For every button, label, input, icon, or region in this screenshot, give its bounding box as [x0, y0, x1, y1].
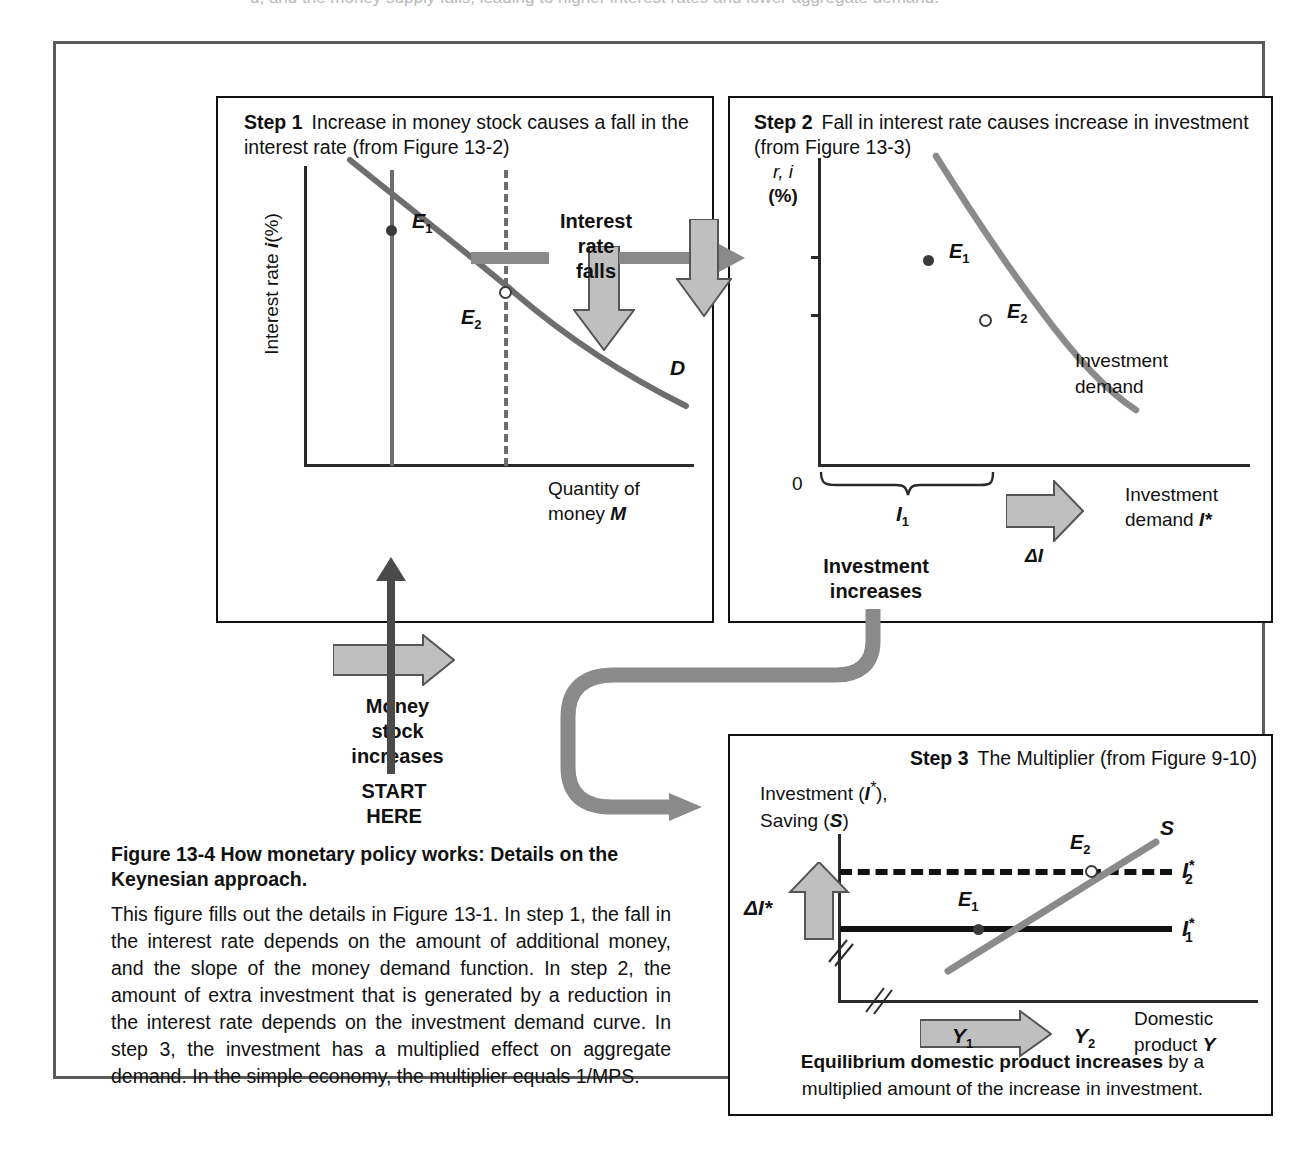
step-3-summary-line2: multiplied amount of the increase in inv… — [802, 1078, 1203, 1099]
figure-outer-frame: Step 1Increase in money stock causes a f… — [53, 41, 1265, 1079]
step-3-investment-line-1-label: I*1 — [1182, 914, 1193, 945]
step-2-point-e1-label: E1 — [949, 240, 970, 266]
step-1-point-e2-marker — [499, 286, 512, 299]
step-2-point-e2-label: E2 — [1007, 300, 1028, 326]
step-1-curve-label-d: D — [670, 356, 685, 380]
step-2-incoming-down-arrow — [676, 219, 732, 317]
panel-step-1: Step 1Increase in money stock causes a f… — [216, 96, 714, 623]
step-3-delta-i-label: ΔI* — [744, 896, 772, 920]
step-1-point-e1-label: E1 — [412, 210, 433, 236]
step-3-saving-curve — [838, 826, 1198, 1016]
step-3-curve-label-s: S — [1160, 816, 1174, 840]
step-1-point-e1-marker — [386, 225, 397, 236]
step-3-summary-text: Equilibrium domestic product increases b… — [744, 1048, 1261, 1102]
step-2-brace-label-i1: I1 — [896, 502, 909, 529]
figure-caption-title: Figure 13-4 How monetary policy works: D… — [111, 842, 671, 892]
panel-step-2: Step 2Fall in interest rate causes incre… — [728, 96, 1273, 623]
investment-increases-label: Investment increases — [756, 554, 996, 604]
interest-rate-falls-label: Interest rate falls — [511, 209, 681, 284]
investment-increases-connector — [506, 609, 926, 849]
step-2-title: Fall in interest rate causes increase in… — [754, 111, 1249, 158]
step-1-point-e2-label: E2 — [461, 306, 482, 332]
step-3-point-e1-label: E1 — [958, 888, 979, 914]
step-3-point-e2-marker — [1085, 865, 1098, 878]
figure-caption-body: This figure fills out the details in Fig… — [111, 901, 671, 1090]
step-3-heading: Step 3The Multiplier (from Figure 9-10) — [910, 746, 1270, 771]
step-3-summary-rest: by a — [1163, 1051, 1204, 1072]
step-2-point-e2-marker — [979, 314, 992, 327]
start-here-label: START HERE — [314, 779, 474, 829]
step-2-y-axis-label: r, i (%) — [752, 160, 814, 208]
step-1-x-axis-symbol: M — [610, 503, 626, 524]
step-2-curve-label: Investment demand — [1075, 348, 1245, 400]
step-2-delta-i-arrow — [1006, 480, 1084, 542]
page-text-sliver: d, and the money supply falls, leading t… — [0, 0, 1315, 14]
step-1-title: Increase in money stock causes a fall in… — [244, 111, 689, 158]
step-1-y-axis-unit: i(%) — [261, 213, 282, 248]
step-1-heading: Step 1Increase in money stock causes a f… — [244, 110, 694, 160]
step-3-summary-bold: Equilibrium domestic product increases — [801, 1051, 1163, 1072]
step-2-point-e1-marker — [923, 255, 934, 266]
step-1-label: Step 1 — [244, 111, 303, 133]
step-3-point-e2-label: E2 — [1070, 831, 1091, 857]
step-3-point-e1-marker — [973, 924, 984, 935]
step-1-y-axis-label: Interest rate i(%) — [261, 184, 283, 384]
step-1-money-demand-curve — [304, 154, 704, 466]
step-2-origin-label: 0 — [792, 472, 803, 495]
step-2-investment-demand-curve — [818, 152, 1238, 472]
step-3-investment-line-2-label: I*2 — [1182, 856, 1193, 887]
start-here-arrow — [374, 557, 408, 775]
step-2-x-axis-label: Investment demand I* — [1125, 482, 1295, 532]
step-2-delta-i-label: ΔI — [1025, 545, 1043, 567]
step-3-title: The Multiplier (from Figure 9-10) — [978, 747, 1258, 769]
step-2-x-axis-symbol: I* — [1199, 509, 1212, 530]
step-1-x-axis-label: Quantity of money M — [548, 476, 718, 526]
step-2-label: Step 2 — [754, 111, 813, 133]
step-3-delta-i-up-arrow — [788, 862, 850, 940]
step-2-brace-i1 — [818, 470, 998, 498]
figure-caption: Figure 13-4 How monetary policy works: D… — [111, 842, 671, 1090]
figure-page: d, and the money supply falls, leading t… — [0, 0, 1315, 1154]
